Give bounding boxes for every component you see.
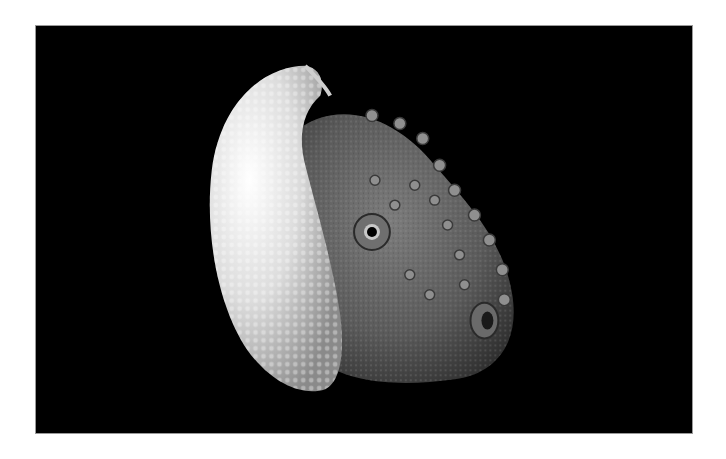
argonaut-illustration: [36, 26, 692, 433]
photograph: [35, 25, 693, 434]
